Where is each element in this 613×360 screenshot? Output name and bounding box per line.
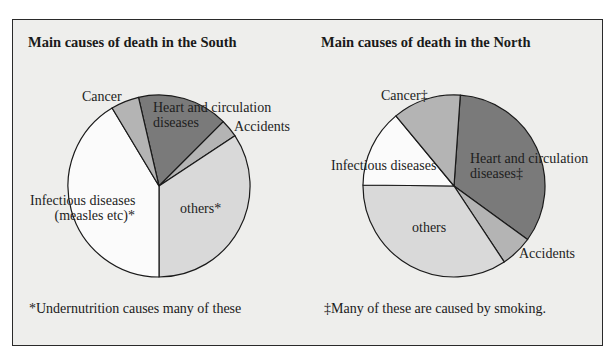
north-label-infectious: Infectious diseases <box>331 158 436 173</box>
north-label-others: others <box>412 220 446 235</box>
north-label-cancer: Cancer‡ <box>381 88 428 103</box>
south-label-heart-line1: Heart and circulation <box>153 100 271 115</box>
south-chart-title: Main causes of death in the South <box>28 34 237 51</box>
north-label-heart-line2: diseases‡ <box>470 166 523 181</box>
south-label-heart-line2: diseases <box>153 115 199 130</box>
south-label-infectious-line1: Infectious diseases <box>30 193 135 208</box>
south-label-cancer: Cancer <box>82 89 122 104</box>
south-label-accidents: Accidents <box>234 119 290 134</box>
south-label-infectious-line2: (measles etc)* <box>30 208 135 223</box>
north-label-heart-line1: Heart and circulation <box>470 151 588 166</box>
north-footnote: ‡Many of these are caused by smoking. <box>324 301 546 317</box>
south-label-others: others* <box>180 201 221 216</box>
north-chart-title: Main causes of death in the North <box>321 34 530 51</box>
north-pie <box>363 95 545 277</box>
south-footnote: *Undernutrition causes many of these <box>29 301 241 317</box>
north-label-accidents: Accidents <box>519 246 575 261</box>
